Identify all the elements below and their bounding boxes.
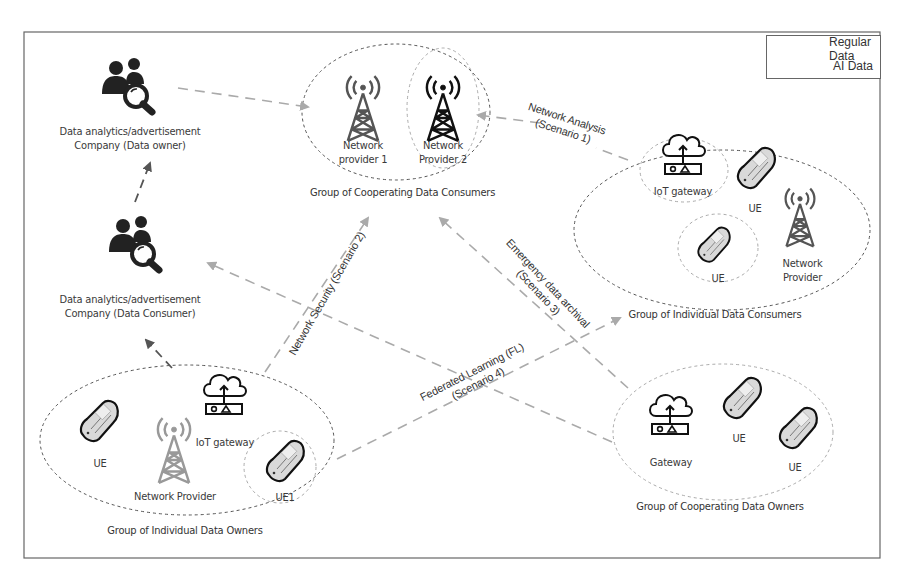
- label-line: Provider 2: [408, 153, 478, 167]
- label-line: Network: [328, 139, 398, 153]
- legend-item-ai-data: AI Data: [827, 59, 873, 73]
- phone-icon: [780, 408, 817, 448]
- people-search-icon: [109, 216, 159, 270]
- label-line: Company (Data Consumer): [40, 307, 220, 321]
- ue-label: UE: [740, 202, 770, 216]
- tower-icon: [427, 76, 459, 141]
- label-line: Provider: [775, 271, 830, 285]
- label-line: Data analytics/advertisement: [40, 293, 220, 307]
- tower-icon: [786, 189, 815, 247]
- label-line: Data analytics/advertisement: [40, 125, 220, 139]
- phone-icon: [724, 378, 761, 418]
- network-provider-1-label: Network provider 1: [328, 139, 398, 167]
- phone-icon: [81, 401, 118, 441]
- individual-owners-group-label: Group of Individual Data Owners: [90, 524, 280, 538]
- gateway-icon: [650, 395, 692, 434]
- label-line: Company (Data owner): [40, 139, 220, 153]
- gateway-label: Gateway: [636, 456, 706, 470]
- legend-label: AI Data: [833, 59, 873, 73]
- network-provider-label: Network Provider: [125, 490, 225, 504]
- legend: Regular Data AI Data: [766, 35, 881, 79]
- gateway-icon: [663, 135, 705, 174]
- individual-consumers-group-label: Group of Individual Data Consumers: [620, 308, 810, 322]
- phone-icon: [698, 228, 729, 262]
- network-provider-2-label: Network Provider 2: [408, 139, 478, 167]
- cooperating-consumers-group-label: Group of Cooperating Data Consumers: [310, 186, 490, 200]
- iot-gateway-label: IoT gateway: [648, 185, 718, 199]
- cooperating-owners-group-label: Group of Cooperating Data Owners: [625, 500, 815, 514]
- company-consumer-label: Data analytics/advertisement Company (Da…: [40, 293, 220, 321]
- network-provider-label: Network Provider: [775, 257, 830, 285]
- label-line: provider 1: [328, 153, 398, 167]
- phone-icon: [738, 148, 775, 188]
- company-owner-label: Data analytics/advertisement Company (Da…: [40, 125, 220, 153]
- ue-label: UE: [703, 272, 733, 286]
- gateway-icon: [204, 375, 246, 414]
- tower-icon: [158, 418, 190, 483]
- label-line: Network: [775, 257, 830, 271]
- iot-gateway-label: IoT gateway: [190, 436, 260, 450]
- label-line: Network: [408, 139, 478, 153]
- phone-icon: [267, 441, 304, 481]
- ue-label: UE: [724, 432, 754, 446]
- legend-item-regular-data: Regular Data: [823, 42, 880, 56]
- ue-label: UE: [780, 461, 810, 475]
- ue1-label: UE1: [270, 491, 300, 505]
- tower-icon: [347, 76, 379, 141]
- people-search-icon: [102, 58, 152, 112]
- ue-label: UE: [85, 457, 115, 471]
- diagram-canvas: Regular Data AI Data Data analytics/adve…: [0, 0, 899, 581]
